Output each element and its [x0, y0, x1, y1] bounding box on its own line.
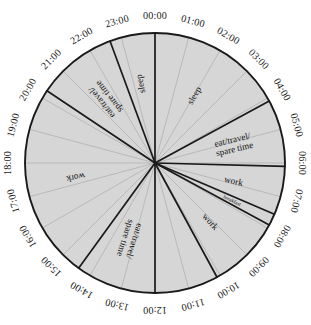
hour-label-text: 02:00 — [215, 25, 241, 47]
hour-label-text: 00:00 — [143, 10, 167, 21]
hour-label-text: 01:00 — [180, 12, 206, 29]
hour-label-2000: 20:00 — [17, 76, 39, 102]
hour-label-2100: 21:00 — [39, 47, 64, 72]
hour-label-text: 09:00 — [247, 255, 272, 280]
hour-label-text: 14:00 — [68, 280, 94, 302]
hour-label-text: 16:00 — [17, 223, 39, 249]
hour-label-1200: 12:00 — [143, 305, 167, 316]
hour-label-text: 13:00 — [104, 297, 130, 314]
clock-chart-svg: sleepeat/travel/spare timeworkbreakfastw… — [0, 0, 311, 325]
hour-label-0900: 09:00 — [247, 255, 272, 280]
hour-label-2300: 23:00 — [104, 12, 130, 29]
hour-label-text: 07:00 — [289, 188, 306, 214]
hour-label-1500: 15:00 — [39, 255, 64, 280]
hour-label-text: 06:00 — [297, 151, 308, 175]
hour-label-1000: 10:00 — [215, 280, 241, 302]
hour-label-text: 11:00 — [180, 297, 206, 314]
hour-label-0700: 07:00 — [289, 188, 306, 214]
hour-label-0500: 05:00 — [289, 112, 306, 138]
hour-label-text: 04:00 — [272, 76, 294, 102]
hour-label-0400: 04:00 — [272, 76, 294, 102]
hour-label-1800: 18:00 — [2, 151, 13, 175]
hour-label-1100: 11:00 — [180, 297, 206, 314]
hour-label-0600: 06:00 — [297, 151, 308, 175]
hour-label-text: 05:00 — [289, 112, 306, 138]
hour-label-text: 18:00 — [2, 151, 13, 175]
hour-label-text: 17:00 — [4, 188, 21, 214]
hour-label-1400: 14:00 — [68, 280, 94, 302]
hour-label-0100: 01:00 — [180, 12, 206, 29]
hour-label-text: 20:00 — [17, 76, 39, 102]
hour-label-1900: 19:00 — [4, 112, 21, 138]
hour-label-text: 08:00 — [272, 223, 294, 249]
hour-label-0300: 03:00 — [247, 47, 272, 72]
hour-label-text: 23:00 — [104, 12, 130, 29]
hour-label-1600: 16:00 — [17, 223, 39, 249]
hour-label-text: 22:00 — [68, 25, 94, 47]
hour-label-0200: 02:00 — [215, 25, 241, 47]
hour-label-1700: 17:00 — [4, 188, 21, 214]
hour-label-text: 12:00 — [143, 305, 167, 316]
hour-label-0800: 08:00 — [272, 223, 294, 249]
hour-label-text: 19:00 — [4, 112, 21, 138]
hour-label-1300: 13:00 — [104, 297, 130, 314]
hour-label-text: 15:00 — [39, 255, 64, 280]
time-use-clock-diagram: sleepeat/travel/spare timeworkbreakfastw… — [0, 0, 311, 325]
hour-label-text: 10:00 — [215, 280, 241, 302]
hour-label-text: 03:00 — [247, 47, 272, 72]
hour-label-2200: 22:00 — [68, 25, 94, 47]
hour-label-text: 21:00 — [39, 47, 64, 72]
hour-label-0000: 00:00 — [143, 10, 167, 21]
